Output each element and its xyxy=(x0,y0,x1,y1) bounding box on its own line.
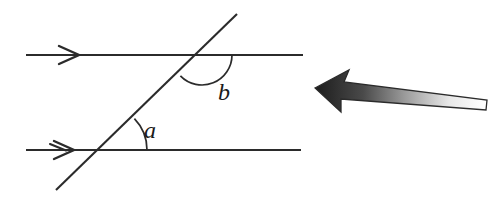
angle-label-b: b xyxy=(218,79,230,105)
geometry-diagram: b a xyxy=(0,0,490,201)
diagram-canvas: b a xyxy=(0,0,490,201)
transversal-line xyxy=(56,14,237,190)
pointer-arrow xyxy=(315,70,487,112)
angle-label-a: a xyxy=(144,117,156,143)
